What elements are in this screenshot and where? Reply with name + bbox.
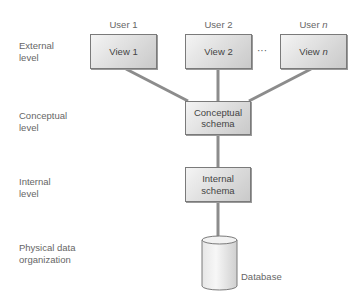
internal-schema-line: schema (201, 185, 234, 197)
level-label-internal: Internal level (19, 176, 51, 199)
view-n-label: View n (299, 46, 327, 58)
user-label-italic: n (322, 19, 327, 30)
user-label-2: User 2 (185, 19, 252, 30)
connector-view1-conceptual (126, 69, 188, 101)
level-label-line: Conceptual (19, 110, 67, 122)
conceptual-schema-box: Conceptual schema (185, 101, 251, 135)
view-n-italic: n (322, 46, 327, 57)
view-n-prefix: View (299, 46, 322, 57)
level-label-line: level (19, 188, 51, 200)
internal-schema-line: Internal (201, 173, 234, 185)
level-label-line: Internal (19, 176, 51, 188)
level-label-physical: Physical data organization (19, 242, 76, 265)
level-label-conceptual: Conceptual level (19, 110, 67, 133)
database-label: Database (241, 271, 282, 282)
level-label-line: Physical data (19, 242, 76, 254)
level-label-line: level (19, 122, 67, 134)
level-label-line: level (19, 52, 54, 64)
ellipsis: ··· (257, 45, 267, 56)
view-1-label: View 1 (109, 46, 137, 58)
view-2-box: View 2 (185, 34, 252, 69)
view-2-label: View 2 (204, 46, 232, 58)
internal-schema-box: Internal schema (185, 167, 251, 202)
view-n-box: View n (280, 34, 347, 69)
view-1-box: View 1 (90, 34, 157, 69)
user-label-1: User 1 (90, 19, 157, 30)
conceptual-schema-line: schema (194, 118, 242, 130)
level-label-line: External (19, 40, 54, 52)
connector-viewn-conceptual (249, 69, 311, 101)
user-label-n: User n (280, 19, 347, 30)
database-cylinder-icon (202, 236, 237, 290)
level-label-line: organization (19, 254, 76, 266)
conceptual-schema-line: Conceptual (194, 107, 242, 119)
user-label-prefix: User (300, 19, 323, 30)
level-label-external: External level (19, 40, 54, 63)
architecture-diagram: External level Conceptual level Internal… (0, 0, 363, 303)
